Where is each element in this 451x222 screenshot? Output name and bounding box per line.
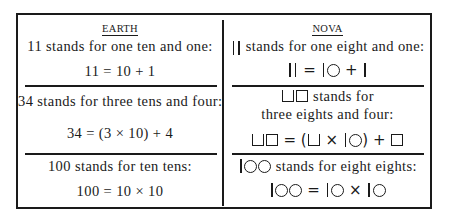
nova-row-3-description-line: stands for eight eights: [224,158,431,175]
bar-symbol-icon [295,63,297,77]
row-divider [25,85,217,87]
nova-row-2-equation: = ( × ) + [224,131,431,149]
nova-row-2-description-1: stands for [313,88,374,104]
bar-symbol-icon [271,183,273,197]
bar-symbol-icon [240,159,242,173]
square-symbol-icon [266,134,278,146]
cup-symbol-icon [282,90,294,102]
nova-numeral-one-one [231,40,242,57]
earth-row-2-equation: 34 = (3 × 10) + 4 [18,125,222,142]
bar-symbol-icon [364,63,366,77]
equals-sign: = [307,181,320,199]
earth-row-3-description: 100 stands for ten tens: [18,158,222,175]
row-divider [25,153,217,155]
circle-symbol-icon [327,64,340,77]
nova-row-2-description-line-2: three eights and four: [224,106,431,123]
bar-symbol-icon [345,133,347,147]
earth-row-3-equation: 100 = 10 × 10 [18,183,222,200]
row-divider [232,153,424,155]
nova-row-2-description-line-1: stands for [224,88,431,105]
nova-column-header-cell: NOVA [224,18,431,36]
bar-symbol-icon [238,41,240,55]
equals-sign: = [303,61,316,79]
open-paren: ( [301,131,307,149]
circle-symbol-icon [349,134,362,147]
circle-symbol-icon [373,184,386,197]
bar-symbol-icon [323,63,325,77]
square-symbol-icon [391,134,403,146]
circle-symbol-icon [244,160,257,173]
close-paren: ) [362,131,368,149]
square-symbol-icon [296,90,308,102]
cup-symbol-icon [308,134,320,146]
nova-row-3-description: stands for eight eights: [276,158,417,174]
equals-sign: = [283,131,296,149]
bar-symbol-icon [233,41,235,55]
nova-row-3-equation: = × [224,181,431,199]
circle-symbol-icon [289,184,302,197]
row-divider [232,85,424,87]
nova-header: NOVA [312,23,342,36]
nova-row-1-description: stands for one eight and one: [246,38,425,54]
plus-sign: + [373,131,386,149]
nova-row-1-description-line: stands for one eight and one: [224,38,431,57]
bar-symbol-icon [327,183,329,197]
earth-row-2-description: 34 stands for three tens and four: [18,93,222,110]
bar-symbol-icon [368,183,370,197]
earth-row-1-description: 11 stands for one ten and one: [18,38,222,55]
earth-row-1-equation: 11 = 10 + 1 [18,63,222,80]
times-sign: × [325,131,338,149]
cup-symbol-icon [252,134,264,146]
nova-row-1-equation: = + [224,61,431,79]
circle-symbol-icon [331,184,344,197]
bar-symbol-icon [289,63,291,77]
earth-header: EARTH [102,23,138,36]
circle-symbol-icon [275,184,288,197]
times-sign: × [349,181,362,199]
earth-column-header-cell: EARTH [18,18,222,36]
plus-sign: + [345,61,358,79]
circle-symbol-icon [258,160,271,173]
